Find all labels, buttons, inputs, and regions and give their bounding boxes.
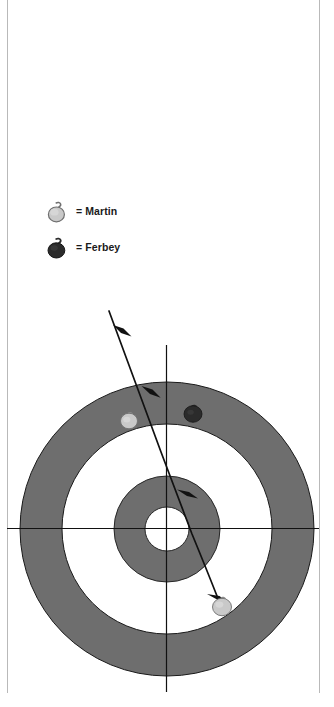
curling-house bbox=[0, 0, 334, 707]
stone-martin-shooter bbox=[213, 597, 232, 615]
diagram-page: = Martin = Ferbey bbox=[0, 0, 334, 707]
stone-ferbey-top bbox=[184, 405, 202, 422]
house-graphics bbox=[0, 0, 334, 707]
stone-martin-guard bbox=[121, 413, 138, 429]
